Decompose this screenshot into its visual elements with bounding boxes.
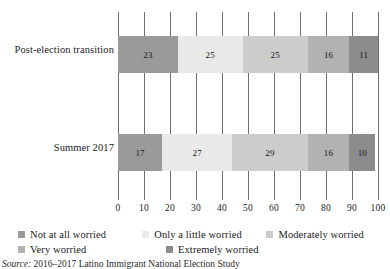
bar-segment: 25	[243, 36, 308, 73]
gridline	[378, 12, 379, 200]
x-axis-tick-label: 60	[269, 203, 279, 213]
source-note: Source: 2016–2017 Latino Immigrant Natio…	[2, 259, 240, 269]
bar-segment: 27	[162, 134, 232, 171]
legend-swatch-icon	[18, 246, 25, 253]
legend-swatch-icon	[18, 231, 25, 238]
category-label-summer-2017: Summer 2017	[0, 142, 114, 153]
bar-segment: 25	[178, 36, 243, 73]
table-row: 1727291610	[118, 134, 378, 171]
x-axis-tick-label: 80	[321, 203, 331, 213]
legend-swatch-icon	[166, 246, 173, 253]
stacked-bar-chart: Post-election transition Summer 2017 232…	[0, 0, 390, 269]
legend-row: Very worriedExtremely worried	[18, 242, 384, 257]
legend: Not at all worriedOnly a little worriedM…	[18, 227, 384, 257]
bar-segment: 11	[349, 36, 378, 73]
x-axis-tick-label: 30	[191, 203, 201, 213]
legend-item[interactable]: Very worried	[18, 244, 166, 255]
x-axis-tick-label: 70	[295, 203, 305, 213]
source-prefix: Source:	[2, 259, 31, 269]
legend-label: Not at all worried	[30, 229, 106, 240]
x-axis-tick-label: 50	[243, 203, 253, 213]
legend-label: Very worried	[30, 244, 86, 255]
bar-segment: 10	[349, 134, 375, 171]
x-axis-tick-label: 40	[217, 203, 227, 213]
legend-label: Moderately worried	[278, 229, 363, 240]
legend-swatch-icon	[142, 231, 149, 238]
legend-row: Not at all worriedOnly a little worriedM…	[18, 227, 384, 242]
legend-label: Only a little worried	[154, 229, 242, 240]
plot-area: 2325251611 1727291610	[118, 12, 378, 200]
legend-swatch-icon	[266, 231, 273, 238]
bar-segment: 23	[118, 36, 178, 73]
legend-item[interactable]: Only a little worried	[142, 229, 266, 240]
x-axis-tick-label: 20	[165, 203, 175, 213]
bar-segment: 16	[308, 134, 350, 171]
x-axis: 0102030405060708090100	[118, 200, 378, 218]
source-text: 2016–2017 Latino Immigrant National Elec…	[31, 259, 239, 269]
table-row: 2325251611	[118, 36, 378, 73]
bar-segment: 29	[232, 134, 307, 171]
legend-item[interactable]: Moderately worried	[266, 229, 384, 240]
x-axis-tick-label: 10	[139, 203, 149, 213]
bar-segment: 16	[308, 36, 350, 73]
x-axis-tick-label: 100	[371, 203, 386, 213]
x-axis-tick-label: 0	[116, 203, 121, 213]
category-label-post-election-transition: Post-election transition	[0, 44, 114, 55]
x-axis-tick-label: 90	[347, 203, 357, 213]
legend-label: Extremely worried	[178, 244, 259, 255]
legend-item[interactable]: Extremely worried	[166, 244, 314, 255]
bar-segment: 17	[118, 134, 162, 171]
legend-item[interactable]: Not at all worried	[18, 229, 142, 240]
